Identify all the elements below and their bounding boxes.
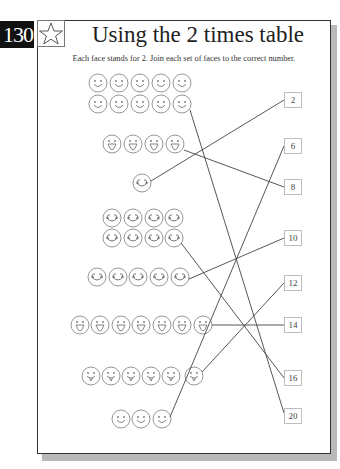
line-6-to-12 bbox=[202, 283, 284, 372]
face-group-10[interactable] bbox=[89, 74, 191, 113]
face-group-1[interactable] bbox=[133, 174, 151, 192]
face-group-8[interactable] bbox=[103, 209, 183, 247]
number-box-10[interactable]: 10 bbox=[284, 230, 302, 246]
face-group-7[interactable] bbox=[71, 316, 212, 334]
number-box-8[interactable]: 8 bbox=[284, 179, 302, 195]
face-group-4[interactable] bbox=[103, 135, 184, 153]
number-box-12[interactable]: 12 bbox=[284, 275, 302, 291]
number-box-16[interactable]: 16 bbox=[284, 370, 302, 386]
line-8-to-16 bbox=[181, 243, 284, 378]
number-box-2[interactable]: 2 bbox=[284, 92, 302, 108]
face-group-5[interactable] bbox=[88, 268, 189, 286]
number-box-6[interactable]: 6 bbox=[284, 138, 302, 154]
number-box-14[interactable]: 14 bbox=[284, 317, 302, 333]
number-box-20[interactable]: 20 bbox=[284, 408, 302, 424]
face-group-3[interactable] bbox=[112, 410, 171, 428]
line-10-to-20 bbox=[190, 110, 284, 413]
